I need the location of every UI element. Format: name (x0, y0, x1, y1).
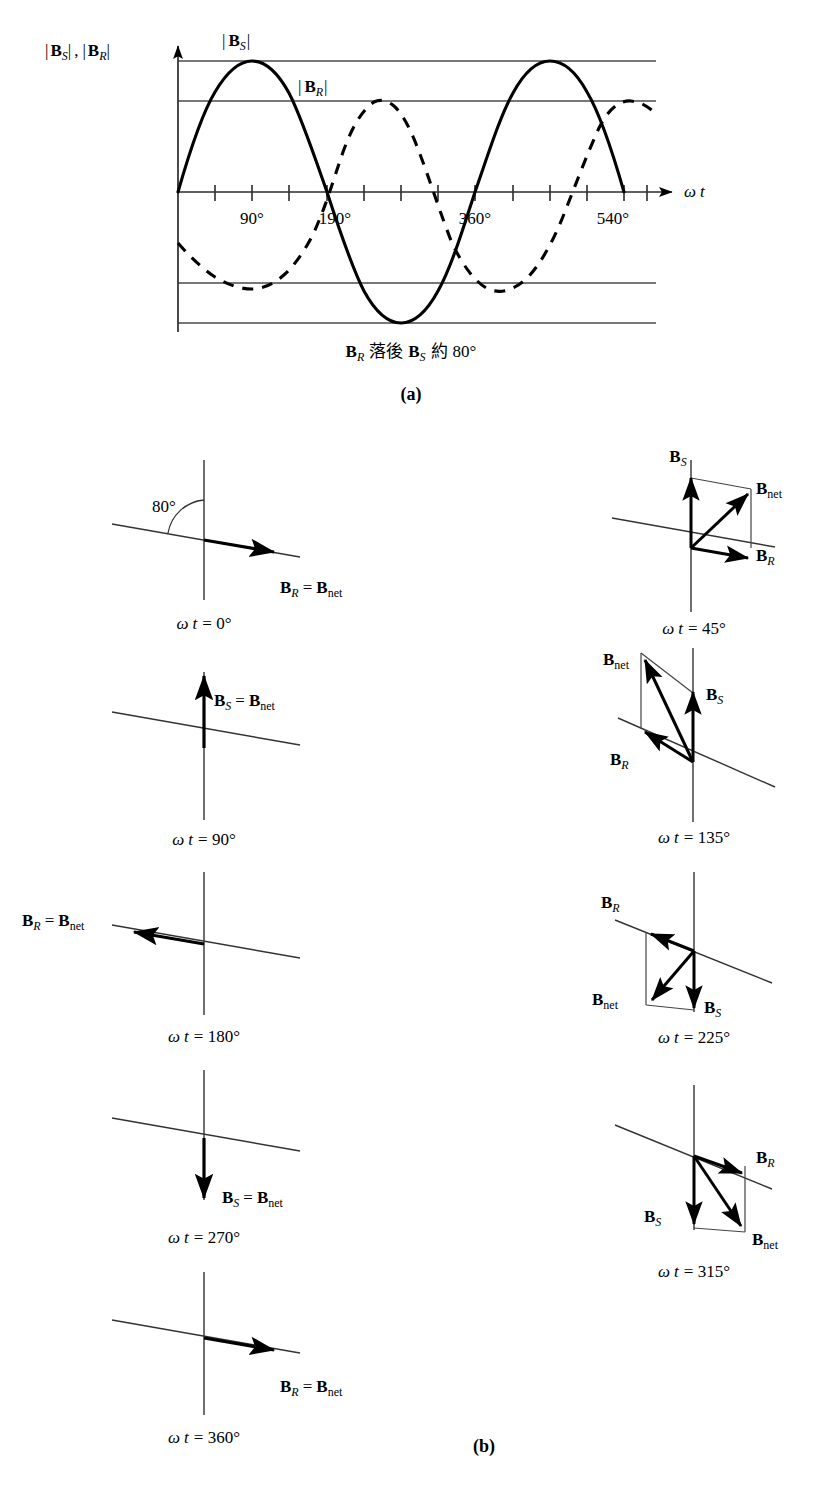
x-tick-label-540: 540° (597, 209, 629, 228)
time-label-wt-360: ωt= 360° (168, 1428, 240, 1447)
y-axis-label: |BS|,|BR| (45, 41, 110, 63)
vector-diagram-wt-135 (618, 648, 775, 822)
panel-a-caption: BR落後BS約80° (346, 341, 477, 364)
vector-label-bs-135: BS (706, 685, 723, 707)
panel-b-label: (b) (473, 1436, 495, 1457)
vector-diagram-wt-315 (615, 1085, 772, 1232)
tilted-axis-line (618, 718, 775, 787)
tilted-axis-line (112, 524, 300, 557)
time-label-wt-315: ωt= 315° (658, 1262, 730, 1281)
vector-bnet (645, 660, 693, 762)
figure-root: |BS|,|BR| ωt |BS| |BR| 90° 190° 360° 540… (0, 0, 822, 1509)
vector-bnet (694, 1156, 741, 1226)
angle-arc-80 (168, 500, 204, 533)
curve-label-bs: |BS| (222, 31, 250, 53)
x-tick-label-90: 90° (240, 209, 264, 228)
vector-label-br-net-180: BR=Bnet (22, 911, 85, 933)
vector-label-br-135: BR (610, 750, 629, 772)
vector-label-bnet-225: Bnet (592, 990, 619, 1012)
time-label-wt-0: ωt= 0° (177, 614, 232, 633)
vector-bnet (652, 951, 694, 1000)
vector-label-bs-225: BS (704, 998, 721, 1020)
time-label-wt-270: ωt= 270° (168, 1228, 240, 1247)
time-label-wt-225: ωt= 225° (658, 1028, 730, 1047)
vector-diagram-wt-225 (615, 872, 772, 1012)
time-label-wt-90: ωt= 90° (172, 830, 235, 849)
panel-a-label: (a) (401, 384, 422, 405)
tilted-axis-line (112, 1118, 300, 1151)
vector-br-net (134, 932, 204, 944)
time-label-wt-45: ωt= 45° (662, 619, 725, 638)
vector-label-bs-315: BS (644, 1207, 661, 1229)
vector-br (694, 1156, 742, 1173)
vector-label-br-net-360: BR=Bnet (280, 1377, 343, 1399)
tilted-axis-line (112, 712, 300, 745)
tilted-axis-line (612, 518, 775, 547)
tilted-axis-line (615, 920, 772, 983)
vector-br-net (204, 1338, 274, 1350)
vector-label-bnet-315: Bnet (752, 1230, 779, 1252)
tilted-axis-line (615, 1125, 772, 1189)
curve-br (178, 100, 656, 291)
vector-label-bnet-45: Bnet (756, 479, 783, 501)
x-axis-label: ωt (684, 182, 706, 201)
vector-diagram-wt-270 (112, 1070, 300, 1200)
curve-bs (178, 61, 624, 323)
time-label-wt-135: ωt= 135° (658, 828, 730, 847)
vector-diagram-wt-0 (112, 460, 300, 600)
parallelogram-side-a (641, 653, 693, 693)
parallelogram-side-b (694, 1228, 745, 1232)
vector-br (651, 934, 694, 951)
parallelogram-side-b (646, 1005, 694, 1010)
curve-label-br: |BR| (298, 77, 328, 99)
parallelogram-side-a (691, 478, 751, 489)
vector-label-bs-net-90: BS=Bnet (214, 691, 276, 713)
vector-diagram-wt-360 (112, 1272, 300, 1415)
figure-svg: |BS|,|BR| ωt |BS| |BR| 90° 190° 360° 540… (0, 0, 822, 1509)
vector-label-br-45: BR (756, 546, 775, 568)
vector-diagram-wt-45 (612, 460, 775, 612)
vector-label-br-net-0: BR=Bnet (280, 578, 343, 600)
vector-bnet (691, 494, 748, 548)
panel-a-plot (178, 46, 672, 332)
tilted-axis-line (112, 925, 300, 958)
x-tick-label-190: 190° (319, 209, 351, 228)
tilted-axis-line (112, 1320, 300, 1353)
x-axis-ticks (215, 185, 647, 201)
angle-label-80: 80° (152, 497, 176, 516)
vector-label-br-225: BR (601, 893, 620, 915)
vector-label-br-315: BR (756, 1148, 775, 1170)
vector-label-bs-net-270: BS=Bnet (222, 1188, 284, 1210)
vector-label-bnet-135: Bnet (603, 650, 630, 672)
vector-br (645, 732, 693, 762)
vector-diagram-wt-90 (112, 672, 300, 820)
vector-br (691, 548, 748, 558)
x-tick-label-360: 360° (459, 209, 491, 228)
vector-label-bs-45: BS (669, 447, 686, 469)
vector-diagram-wt-180 (112, 872, 300, 1015)
vector-br-net (204, 540, 274, 552)
time-label-wt-180: ωt= 180° (168, 1027, 240, 1046)
